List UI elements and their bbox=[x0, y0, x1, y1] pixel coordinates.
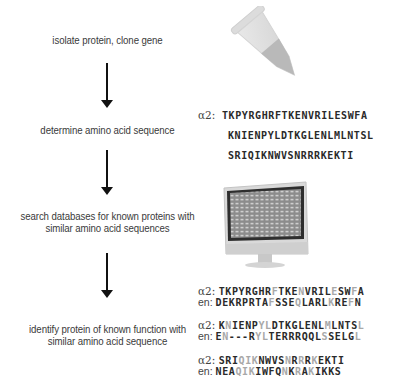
step-identify-protein: identify protein of known function with … bbox=[9, 323, 207, 347]
desktop-computer-icon bbox=[220, 178, 315, 270]
step-determine-sequence: determine amino acid sequence bbox=[9, 124, 207, 136]
alignment-match-row: en: DEKRPRTAFSSEQLARLKREFN bbox=[198, 297, 361, 308]
alignment-query-row: α2: TKPYRGHRFTKENVRILESWFA bbox=[198, 286, 364, 297]
sequence-label: α2: bbox=[198, 109, 215, 121]
down-arrow-icon bbox=[101, 253, 113, 298]
down-arrow-icon bbox=[101, 63, 113, 108]
alignment-query-row: α2: SRIQIKNWVSNRRRKEKTI bbox=[198, 355, 345, 366]
alignment-query-row: α2: KNIENPYLDTKGLENLMLNTSL bbox=[198, 320, 364, 331]
step-label-line2: similar amino acid sequence bbox=[9, 335, 207, 347]
alignment-label: en: bbox=[198, 365, 216, 377]
sequence-line-2: KNIENPYLDTKGLENLMLNTSL bbox=[228, 130, 374, 141]
alignment-label: en: bbox=[198, 330, 216, 342]
step-label: determine amino acid sequence bbox=[40, 124, 174, 136]
step-label-line1: identify protein of known function with bbox=[9, 323, 207, 335]
sequence-line-3: SRIQIKNWVSNRRRKEKTI bbox=[228, 150, 354, 161]
step-label-line2: similar amino acid sequences bbox=[9, 222, 207, 234]
step-label-line1: search databases for known proteins with bbox=[9, 210, 207, 222]
step-isolate-protein: isolate protein, clone gene bbox=[9, 34, 207, 46]
alignment-match-row: en: NEAQIKIWFQNKRAKIKKS bbox=[198, 366, 341, 377]
step-label: isolate protein, clone gene bbox=[52, 34, 162, 46]
sequence-text: TKPYRGHRFTKENVRILESWFA bbox=[222, 110, 368, 121]
sequence-line-1: α2: TKPYRGHRFTKENVRILESWFA bbox=[198, 110, 368, 121]
sequence-text: SRIQIKNWVSNRRRKEKTI bbox=[228, 150, 354, 161]
down-arrow-icon bbox=[101, 150, 113, 195]
step-search-databases: search databases for known proteins with… bbox=[9, 210, 207, 234]
alignment-label: en: bbox=[198, 296, 216, 308]
alignment-match-row: en: EN---RYLTERRRQQLSSELGL bbox=[198, 331, 361, 342]
sequence-text: KNIENPYLDTKGLENLMLNTSL bbox=[228, 130, 374, 141]
microcentrifuge-tube-icon bbox=[230, 6, 310, 86]
